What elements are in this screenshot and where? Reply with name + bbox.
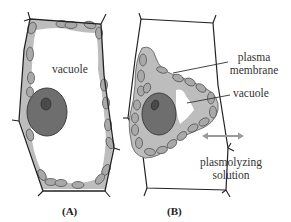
panel-label-b: (B) [167, 205, 182, 217]
double-arrow-icon [202, 133, 244, 140]
plasma-membrane-line1: plasma [228, 51, 280, 64]
plasma-membrane-leader [173, 62, 228, 73]
vacuole-b-label: vacuole [233, 87, 269, 99]
plasmolyzing-line2: solution [193, 169, 269, 182]
panel-label-a: (A) [62, 205, 77, 217]
plasmolyzing-line1: plasmolyzing [193, 156, 269, 169]
plasma-membrane-label: plasma membrane [228, 51, 280, 77]
plasmolyzing-solution-label: plasmolyzing solution [193, 156, 269, 182]
cell-a [12, 12, 120, 197]
cell-b-nucleus [142, 93, 176, 135]
vacuole-a-label: vacuole [52, 63, 88, 75]
cell-a-nucleolus [41, 98, 51, 110]
plasma-membrane-line2: membrane [228, 64, 280, 77]
plant-cell-diagram [0, 0, 291, 222]
